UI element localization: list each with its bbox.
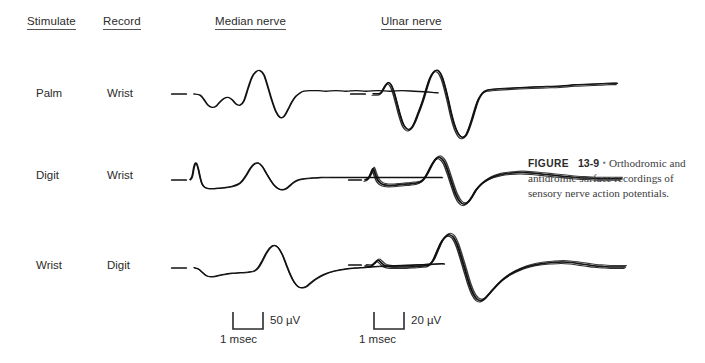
column-header-record: Record — [103, 14, 141, 30]
calibration-amplitude-median: 50 µV — [270, 314, 300, 327]
figure-number: 13-9 — [578, 157, 599, 169]
row-3-record-label: Digit — [107, 258, 130, 272]
row-3-stimulate-label: Wrist — [36, 258, 62, 272]
calibration-time-median: 1 msec — [220, 333, 257, 346]
calibration-median: 50 µV 1 msec — [230, 310, 350, 352]
figure-caption: FIGURE13-9▪Orthodromic and antidromic su… — [528, 155, 700, 202]
calibration-ulnar: 20 µV 1 msec — [371, 310, 491, 352]
figure-label: FIGURE — [528, 158, 569, 169]
column-header-ulnar-nerve: Ulnar nerve — [381, 14, 442, 30]
figure-bullet-icon: ▪ — [603, 158, 606, 167]
calibration-time-ulnar: 1 msec — [359, 333, 396, 346]
row-2-record-label: Wrist — [107, 168, 133, 182]
column-header-stimulate: Stimulate — [27, 14, 76, 30]
column-header-median-nerve: Median nerve — [215, 14, 286, 30]
row-2-stimulate-label: Digit — [36, 168, 59, 182]
row-1-record-label: Wrist — [107, 86, 133, 100]
waveform-ulnar-palm-wrist — [345, 44, 635, 144]
row-1-stimulate-label: Palm — [36, 86, 62, 100]
calibration-amplitude-ulnar: 20 µV — [411, 314, 441, 327]
waveform-ulnar-wrist-digit — [345, 220, 635, 310]
